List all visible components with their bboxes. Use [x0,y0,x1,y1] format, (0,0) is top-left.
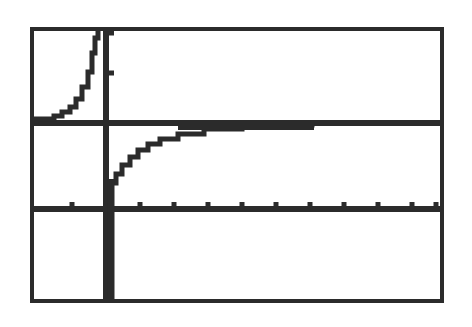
x-axis-group [34,202,440,209]
rational-curve-left-branch [36,33,98,121]
graph-canvas[interactable] [34,31,440,299]
screenshot-root [0,0,472,327]
plot-area[interactable] [34,31,440,299]
calculator-screen-bezel [30,27,444,303]
